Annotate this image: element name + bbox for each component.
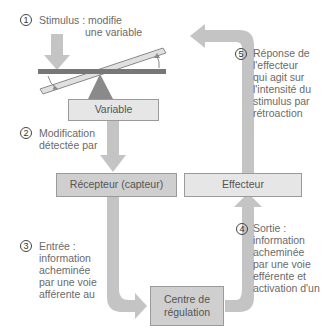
arrow-feedback bbox=[190, 24, 254, 173]
effector-label: Effecteur bbox=[222, 178, 264, 191]
step-4-number: 4 bbox=[236, 223, 248, 235]
step-4-text: Sortie : information acheminée par une v… bbox=[253, 222, 320, 294]
control-center-box: Centre de régulation bbox=[150, 286, 224, 326]
receptor-box: Récepteur (capteur) bbox=[56, 173, 177, 197]
step-1-text: Stimulus : modifie une variable bbox=[39, 14, 142, 38]
step-5-number: 5 bbox=[235, 48, 247, 60]
stimulus-arrow bbox=[44, 34, 70, 70]
step-3-number: 3 bbox=[20, 240, 32, 252]
lever-bar bbox=[38, 69, 166, 74]
control-center-label-line2: régulation bbox=[164, 306, 210, 319]
effector-box: Effecteur bbox=[184, 173, 302, 197]
arrow-receptor-to-control bbox=[107, 197, 147, 319]
arrow-variable-to-receptor bbox=[100, 121, 126, 172]
control-center-label-line1: Centre de bbox=[164, 293, 210, 306]
step-5-text: Réponse de l'effecteur qui agit sur l'in… bbox=[253, 47, 311, 119]
step-2-number: 2 bbox=[20, 127, 32, 139]
step-1-number: 1 bbox=[20, 14, 32, 26]
step-3-text: Entrée : information acheminée par une v… bbox=[39, 240, 97, 300]
variable-box: Variable bbox=[68, 99, 159, 121]
receptor-label: Récepteur (capteur) bbox=[70, 178, 163, 191]
variable-label: Variable bbox=[95, 103, 133, 116]
homeostasis-diagram: Variable Récepteur (capteur) Effecteur C… bbox=[0, 0, 335, 334]
step-2-text: Modification détectée par bbox=[39, 127, 97, 151]
